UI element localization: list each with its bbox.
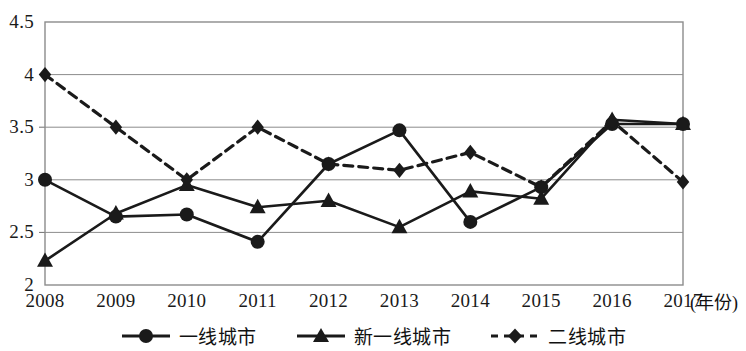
chart-legend: 一线城市新一线城市二线城市: [0, 322, 746, 349]
x-axis-tick-label: 2015: [522, 290, 561, 312]
x-axis-title: (年份): [690, 288, 738, 314]
plot-frame: [45, 22, 683, 285]
x-axis-tick-label: 2014: [451, 290, 490, 312]
legend-item-2: 新一线城市: [295, 322, 452, 349]
circle-marker-icon: [120, 325, 172, 347]
diamond-marker-icon: [39, 67, 51, 82]
x-axis-tick-label: 2010: [167, 290, 206, 312]
triangle-marker-icon: [295, 325, 347, 347]
diamond-marker-icon: [251, 120, 263, 135]
triangle-marker-icon: [462, 183, 478, 197]
y-axis-tick-label: 4: [0, 64, 34, 86]
x-axis-tick-label: 2011: [238, 290, 277, 312]
circle-marker-icon: [463, 215, 477, 229]
legend-label: 二线城市: [548, 322, 626, 349]
circle-marker-icon: [180, 208, 194, 222]
legend-marker: [139, 329, 153, 343]
x-axis-tick-label: 2016: [593, 290, 632, 312]
y-axis-tick-label: 3.5: [0, 116, 34, 138]
legend-marker: [508, 328, 522, 343]
x-axis-tick-label: 2012: [309, 290, 348, 312]
diamond-marker-icon: [110, 120, 122, 135]
legend-item-1: 一线城市: [120, 322, 257, 349]
legend-label: 一线城市: [179, 322, 257, 349]
diamond-marker-icon: [489, 325, 541, 347]
x-axis-tick-label: 2013: [380, 290, 419, 312]
triangle-marker-icon: [321, 192, 337, 206]
x-axis-tick-label: 2009: [96, 290, 135, 312]
triangle-marker-icon: [37, 252, 53, 266]
y-axis-tick-label: 3: [0, 169, 34, 191]
circle-marker-icon: [251, 235, 265, 249]
series-line-3: [45, 75, 683, 188]
legend-item-3: 二线城市: [489, 322, 626, 349]
series-line-2: [45, 120, 683, 261]
y-axis-tick-label: 4.5: [0, 11, 34, 33]
series-line-1: [45, 124, 683, 242]
diamond-marker-icon: [393, 163, 405, 178]
circle-marker-icon: [38, 173, 52, 187]
legend-label: 新一线城市: [354, 322, 452, 349]
y-axis-tick-label: 2.5: [0, 221, 34, 243]
diamond-marker-icon: [464, 145, 476, 160]
line-chart-figure: 22.533.544.5 200820092010201120122013201…: [0, 0, 746, 351]
circle-marker-icon: [392, 123, 406, 137]
x-axis-tick-label: 2008: [25, 290, 64, 312]
